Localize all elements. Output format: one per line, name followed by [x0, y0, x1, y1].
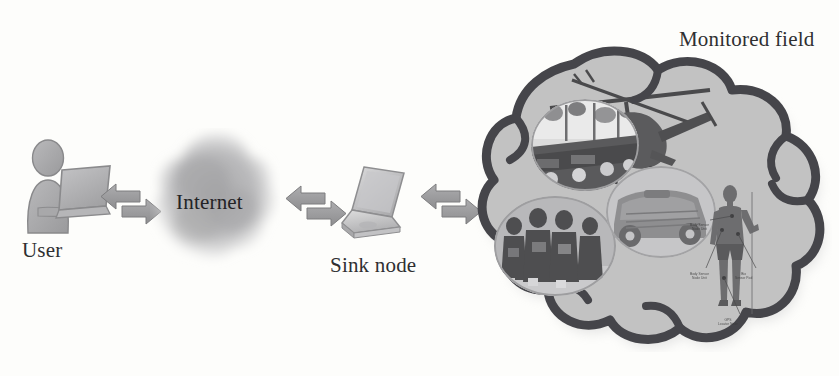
- user-label: User: [22, 238, 62, 263]
- network-architecture-diagram: Internet: [0, 0, 839, 376]
- sensor-callout-3: GPS Locator Node: [718, 318, 738, 326]
- sink-node-label: Sink node: [330, 253, 416, 278]
- sensor-callout-1: Body Sensor Node Unit: [690, 272, 709, 280]
- body-worn-sensor-soldier-diagram: [700, 182, 770, 322]
- sensor-callout-0: Body Sensor Node Unit: [690, 223, 709, 231]
- soldiers-group-photo-oval: [494, 196, 616, 296]
- laptop-icon: [338, 163, 414, 245]
- internet-label: Internet: [176, 190, 243, 215]
- sensor-callout-2: Bio Sensor Pod: [735, 272, 752, 280]
- monitored-field-label: Monitored field: [679, 27, 814, 52]
